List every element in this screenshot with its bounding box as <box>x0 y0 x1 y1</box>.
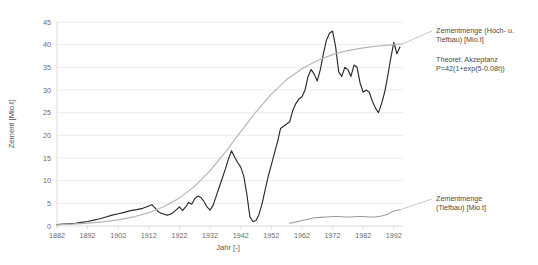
x-tick-1992: 1992 <box>386 231 402 240</box>
x-axis-tick-labels: 1882189219021912192219321942195219621972… <box>49 231 402 240</box>
x-tick-1972: 1972 <box>325 231 341 240</box>
chart-container: 051015202530354045 188218921902191219221… <box>0 0 538 265</box>
x-tick-1922: 1922 <box>171 231 187 240</box>
x-tick-1952: 1952 <box>263 231 279 240</box>
x-tick-1942: 1942 <box>233 231 249 240</box>
series-path-theoret-akzeptanz <box>57 44 403 225</box>
data-series-layer <box>57 31 403 225</box>
y-axis-title: Zement [Mio.t] <box>7 100 16 149</box>
legend-main-series-label-line2: Tiefbau) [Mio.t] <box>436 35 484 44</box>
y-tick-15: 15 <box>43 154 51 163</box>
x-tick-1912: 1912 <box>141 231 157 240</box>
x-axis-title: Jahr [-] <box>216 243 240 252</box>
gridlines-group <box>57 22 403 226</box>
x-tick-1902: 1902 <box>110 231 126 240</box>
series-path-hoch-und-tiefbau <box>57 31 400 225</box>
legend-main-series-label-line1: Zementmenge (Hoch- u. <box>436 26 514 35</box>
y-tick-35: 35 <box>43 63 51 72</box>
legend-theory-formula: P=42(1+exp(5-0.08t)) <box>436 64 505 73</box>
y-tick-45: 45 <box>43 18 51 27</box>
x-tick-1962: 1962 <box>294 231 310 240</box>
x-tick-1932: 1932 <box>202 231 218 240</box>
y-tick-20: 20 <box>43 131 51 140</box>
y-tick-5: 5 <box>47 199 51 208</box>
y-tick-40: 40 <box>43 40 51 49</box>
legend-tiefbau-label-line2: (Tiefbau) [Mio.t] <box>436 203 486 212</box>
x-tick-1882: 1882 <box>49 231 65 240</box>
y-tick-25: 25 <box>43 108 51 117</box>
x-tick-1982: 1982 <box>355 231 371 240</box>
series-path-tiefbau <box>290 210 400 224</box>
cement-production-line-chart: 051015202530354045 188218921902191219221… <box>0 0 538 265</box>
legend-theory-label-line1: Theoret. Akzeptanz <box>436 55 498 64</box>
leader-line-tiefbau-series <box>400 199 432 210</box>
x-axis-tick-marks <box>57 226 394 229</box>
leader-line-main-series <box>403 31 432 44</box>
legend-tiefbau-label-line1: Zementmenge <box>436 194 482 203</box>
x-tick-1892: 1892 <box>80 231 96 240</box>
y-tick-30: 30 <box>43 86 51 95</box>
y-tick-10: 10 <box>43 176 51 185</box>
y-tick-0: 0 <box>47 222 51 231</box>
legend-leader-lines <box>400 31 432 210</box>
y-axis-tick-labels: 051015202530354045 <box>43 18 51 231</box>
